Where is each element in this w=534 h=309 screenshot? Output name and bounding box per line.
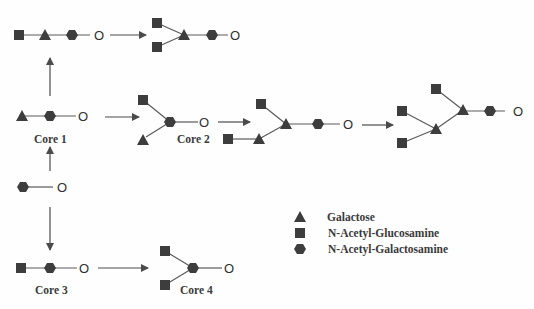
legend-label: Galactose [327, 211, 375, 223]
glcnac-square-icon [16, 263, 26, 273]
galnac-hexagon-icon [312, 119, 324, 129]
galnac-hexagon-icon [206, 30, 218, 40]
glcnac-square-icon [138, 95, 148, 105]
hexagon-icon [294, 244, 306, 254]
branched-core1-chain: O [152, 18, 240, 52]
legend-item-glcnac: N-Acetyl-Glucosamine [295, 227, 439, 240]
core2-structure: O Core 2 [137, 95, 210, 145]
anchor-o: O [224, 261, 234, 276]
anchor-o: O [94, 28, 104, 43]
core1-label: Core 1 [34, 133, 67, 145]
core4-label: Core 4 [180, 284, 213, 296]
core2-label: Core 2 [177, 133, 210, 145]
glcnac-square-icon [256, 99, 266, 109]
extended-core1-chain: O [14, 28, 104, 43]
galactose-triangle-icon [430, 123, 442, 134]
o-glycan-core-pathway-diagram: O O O Core 1 O Core 2 [0, 0, 534, 309]
glcnac-square-icon [152, 42, 162, 52]
glcnac-square-icon [14, 30, 24, 40]
core1-structure: O Core 1 [16, 109, 88, 145]
galnac-hexagon-icon [187, 263, 199, 273]
legend-label: N-Acetyl-Glucosamine [328, 227, 439, 240]
anchor-o: O [78, 109, 88, 124]
anchor-o: O [343, 117, 353, 132]
galnac-hexagon-icon [484, 106, 496, 116]
triangle-icon [294, 211, 306, 222]
glcnac-square-icon [160, 280, 170, 290]
anchor-o: O [57, 180, 67, 195]
legend-item-galnac: N-Acetyl-Galactosamine [294, 243, 448, 256]
glcnac-square-icon [397, 106, 407, 116]
core4-structure: O Core 4 [160, 246, 234, 296]
galactose-triangle-icon [457, 104, 469, 115]
core3-structure: O Core 3 [16, 261, 89, 296]
anchor-o: O [513, 104, 523, 119]
core2-branched-chain: O [397, 84, 523, 148]
galnac-hexagon-icon [44, 111, 56, 121]
glcnac-square-icon [223, 134, 233, 144]
anchor-o: O [230, 28, 240, 43]
anchor-o: O [79, 261, 89, 276]
galnac-hexagon-icon [66, 30, 78, 40]
square-icon [295, 228, 305, 238]
legend-item-galactose: Galactose [294, 211, 375, 223]
core3-label: Core 3 [35, 284, 68, 296]
galnac-hexagon-icon [17, 182, 29, 192]
base-galnac-structure: O [17, 180, 67, 195]
galnac-hexagon-icon [44, 263, 56, 273]
anchor-o: O [199, 115, 209, 130]
glcnac-square-icon [397, 138, 407, 148]
glcnac-square-icon [431, 84, 441, 94]
glcnac-square-icon [152, 18, 162, 28]
legend: Galactose N-Acetyl-Glucosamine N-Acetyl-… [294, 211, 448, 256]
legend-label: N-Acetyl-Galactosamine [328, 243, 448, 256]
glcnac-square-icon [160, 246, 170, 256]
